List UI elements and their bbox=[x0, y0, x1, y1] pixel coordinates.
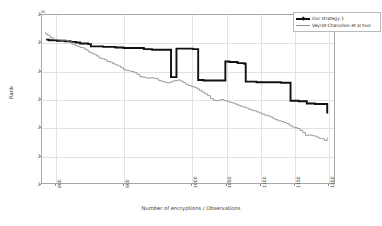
x-axis-title: Number of encryptions / Observations bbox=[0, 205, 382, 211]
plot-area bbox=[41, 14, 335, 184]
x-axis-tick-label: 1000 bbox=[193, 176, 198, 188]
y-axis-title: Rank bbox=[8, 86, 14, 99]
x-axis-tick-label: 1100 bbox=[262, 176, 267, 188]
y-axis-tick-mark bbox=[39, 184, 41, 185]
chart-figure: Rank 210215220225230235240 8009001000105… bbox=[0, 0, 382, 226]
legend-line-icon bbox=[296, 25, 310, 26]
data-curves bbox=[42, 15, 334, 183]
legend-entry: Veyrat-Charvillon et al tool bbox=[296, 22, 378, 29]
legend-label: Veyrat-Charvillon et al tool bbox=[312, 23, 371, 28]
legend-label: Our strategy 1 bbox=[312, 16, 344, 21]
legend-swatch bbox=[296, 22, 310, 29]
legend-swatch bbox=[296, 15, 310, 22]
x-axis-tick-label: 1200 bbox=[330, 176, 335, 188]
x-axis-tick-mark bbox=[123, 184, 124, 186]
x-axis-tick-label: 1050 bbox=[227, 176, 232, 188]
x-axis-tick-label: 900 bbox=[125, 179, 130, 188]
x-axis-tick-mark bbox=[294, 184, 295, 186]
x-axis-tick-mark bbox=[55, 184, 56, 186]
chart-legend: Our strategy 1Veyrat-Charvillon et al to… bbox=[293, 12, 381, 32]
legend-entry: Our strategy 1 bbox=[296, 15, 378, 22]
x-axis-tick-label: 800 bbox=[57, 179, 62, 188]
x-axis-tick-label: 1150 bbox=[296, 176, 301, 188]
x-axis-tick-mark bbox=[260, 184, 261, 186]
